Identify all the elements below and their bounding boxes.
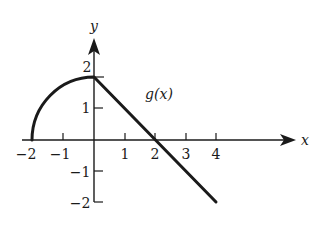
graph-of-g: −2 −1 1 2 3 4 2 1 −1 −2 y x g(x) [0,0,327,225]
y-tick-label: −2 [70,195,91,211]
x-tick-label: −2 [16,146,37,162]
y-tick-label: 2 [83,59,92,75]
y-tick-label: 1 [82,100,91,116]
x-tick-label: 2 [151,146,160,162]
x-tick-label: −1 [50,146,71,162]
x-ticks [63,133,216,140]
x-tick-label: 4 [212,146,221,162]
y-tick-label: −1 [70,164,91,180]
y-axis-label: y [89,18,99,34]
x-tick-label: 1 [121,146,130,162]
x-axis-label: x [301,132,309,148]
function-label: g(x) [145,86,173,102]
x-tick-label: 3 [182,146,191,162]
